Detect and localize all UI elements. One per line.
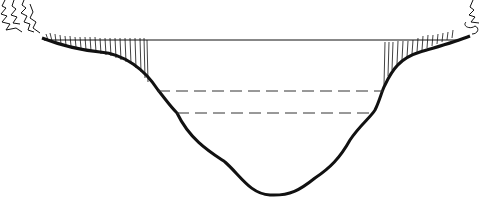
- littoral-vegetation-right: [384, 30, 453, 85]
- trees-left-icon: [1, 0, 40, 33]
- trees-right-icon: [465, 0, 479, 34]
- lake-cross-section-diagram: [0, 0, 481, 199]
- lake-basin-outline: [42, 36, 470, 195]
